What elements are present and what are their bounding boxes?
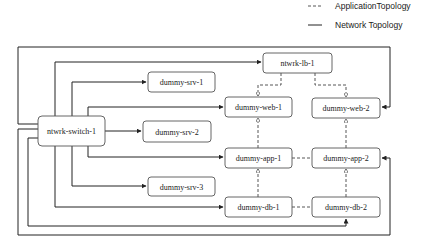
- node-label: dummy-app-1: [236, 154, 281, 163]
- node-dummy-app-1[interactable]: dummy-app-1: [225, 148, 292, 168]
- node-dummy-db-1[interactable]: dummy-db-1: [225, 197, 292, 217]
- node-label: dummy-srv-1: [160, 78, 204, 87]
- node-label: ntwrk-lb-1: [280, 59, 314, 68]
- node-dummy-srv-2[interactable]: dummy-srv-2: [143, 121, 211, 142]
- node-label: dummy-app-2: [323, 154, 368, 163]
- node-label: dummy-srv-2: [155, 128, 199, 137]
- node-dummy-web-2[interactable]: dummy-web-2: [312, 98, 380, 118]
- node-label: dummy-web-1: [235, 103, 282, 112]
- node-dummy-db-2[interactable]: dummy-db-2: [312, 197, 380, 217]
- node-dummy-srv-3[interactable]: dummy-srv-3: [148, 177, 215, 196]
- node-label: dummy-db-2: [325, 203, 367, 212]
- app-edge-lb-web2: [315, 73, 346, 97]
- node-label: ntwrk-switch-1: [47, 127, 96, 136]
- node-ntwrk-switch-1[interactable]: ntwrk-switch-1: [38, 116, 105, 146]
- edge-switch-web1: [88, 107, 223, 116]
- node-label: dummy-srv-3: [160, 183, 204, 192]
- node-dummy-app-2[interactable]: dummy-app-2: [312, 148, 380, 168]
- node-label: dummy-web-2: [322, 104, 369, 113]
- topology-diagram: ApplicationTopology Network Topology: [0, 0, 422, 248]
- app-edge-lb-web1: [258, 73, 281, 96]
- node-ntwrk-lb-1[interactable]: ntwrk-lb-1: [263, 53, 332, 73]
- edge-switch-srv1: [72, 82, 146, 116]
- node-dummy-srv-1[interactable]: dummy-srv-1: [148, 72, 215, 92]
- legend-network-label: Network Topology: [335, 20, 403, 30]
- node-label: dummy-db-1: [238, 203, 280, 212]
- node-dummy-web-1[interactable]: dummy-web-1: [225, 97, 292, 117]
- application-edges: [258, 73, 346, 207]
- edge-switch-db1: [55, 146, 223, 207]
- edge-switch-app1: [88, 146, 223, 157]
- edge-switch-srv3: [72, 146, 146, 186]
- legend-application-label: ApplicationTopology: [335, 1, 411, 11]
- legend: ApplicationTopology Network Topology: [308, 1, 411, 30]
